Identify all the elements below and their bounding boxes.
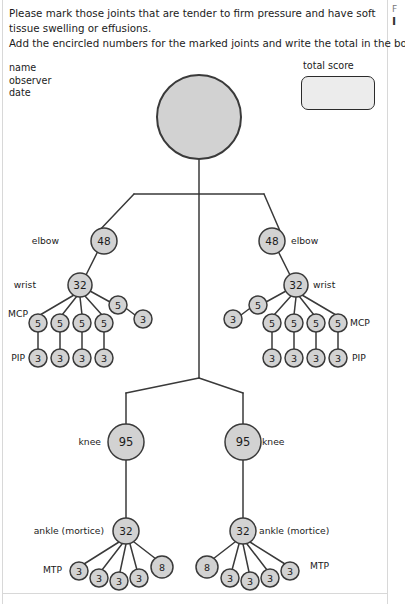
joint-node-pip-right-2[interactable]: 3	[307, 349, 325, 367]
joint-node-pip-left-4[interactable]: 3	[95, 349, 113, 367]
label-mcp-left: MCP	[0, 309, 28, 318]
joint-node-mcp-right-2[interactable]: 5	[307, 314, 325, 332]
connector-ankle-to-mtp-right-4	[232, 544, 239, 570]
joint-value-mtp-right-1: 3	[287, 566, 293, 577]
joint-value-pip-left-1: 3	[35, 353, 41, 364]
label-wrist-left: wrist	[0, 280, 36, 289]
joint-node-mtp-right-3[interactable]: 3	[241, 572, 259, 590]
label-knee-left: knee	[0, 437, 101, 446]
connector-ankle-to-mtp-left-4	[130, 544, 137, 570]
joint-value-mcp-right-1: 5	[335, 318, 341, 329]
joint-value-elbow-left: 48	[97, 235, 110, 247]
connector-wrist-to-mcp-right-4	[274, 296, 291, 315]
joint-value-mcp-right-4: 5	[269, 318, 275, 329]
label-elbow-right: elbow	[291, 236, 318, 245]
joint-node-mtp-right-1[interactable]: 3	[281, 562, 299, 580]
joint-node-ip-right-thumb[interactable]: 3	[224, 310, 242, 328]
connector-wrist-to-mcp-left-1	[40, 295, 74, 315]
joint-node-mcp-right-thumb[interactable]: 5	[249, 296, 267, 314]
joint-node-wrist-left[interactable]: 32	[68, 273, 92, 297]
connector-hip-right-diagonal	[199, 378, 243, 393]
joint-value-pip-left-2: 3	[57, 353, 63, 364]
label-mtp-right: MTP	[310, 561, 329, 570]
joint-node-pip-right-3[interactable]: 3	[285, 349, 303, 367]
joint-node-mcp-left-1[interactable]: 5	[29, 314, 47, 332]
joint-node-mcp-right-1[interactable]: 5	[329, 314, 347, 332]
joint-value-mcp-left-3: 5	[79, 318, 85, 329]
joint-node-ankle-left[interactable]: 32	[113, 518, 139, 544]
joint-value-knee-right: 95	[236, 435, 251, 449]
joint-node-mtp-left-3[interactable]: 3	[110, 572, 128, 590]
connector-wrist-to-mcp-left-3	[80, 297, 82, 315]
joint-node-mtp-left-5[interactable]: 8	[151, 556, 173, 578]
joint-node-mcp-left-thumb[interactable]: 5	[109, 296, 127, 314]
joint-node-pip-right-4[interactable]: 3	[263, 349, 281, 367]
joint-node-mtp-right-4[interactable]: 3	[221, 569, 239, 587]
head-circle[interactable]	[157, 75, 241, 159]
joint-node-mcp-right-3[interactable]: 5	[285, 314, 303, 332]
joint-value-mtp-right-2: 3	[267, 573, 273, 584]
connector-ankle-to-mtp-left-1	[84, 542, 119, 564]
joint-value-mcp-left-2: 5	[57, 318, 63, 329]
joint-value-mtp-right-4: 3	[227, 573, 233, 584]
connector-ankle-to-mtp-right-2	[247, 544, 267, 570]
joint-value-pip-right-4: 3	[269, 353, 275, 364]
connector-wrist-to-mcp-right-3	[294, 297, 296, 315]
joint-node-ip-left-thumb[interactable]: 3	[134, 310, 152, 328]
joint-node-mtp-left-1[interactable]: 3	[70, 562, 88, 580]
joint-node-mcp-right-4[interactable]: 5	[263, 314, 281, 332]
connector-wrist-to-mcp-right-1	[302, 295, 336, 315]
joint-value-mtp-left-5: 8	[159, 562, 165, 573]
label-ankle-left: ankle (mortice)	[0, 526, 104, 535]
joint-value-ip-left-thumb: 3	[140, 314, 146, 325]
joint-node-mtp-right-5[interactable]: 8	[196, 556, 218, 578]
label-knee-right: knee	[262, 437, 284, 446]
joint-value-mtp-left-3: 3	[116, 576, 122, 587]
joint-value-mtp-right-3: 3	[247, 576, 253, 587]
connector-ankle-to-mtp-right-1	[250, 542, 285, 564]
joint-value-pip-left-3: 3	[79, 353, 85, 364]
connector-ankle-to-mtp-left-3	[120, 544, 126, 572]
head-node[interactable]	[157, 75, 241, 159]
connector-ankle-to-mtp-right-5	[213, 542, 235, 559]
connector-elbow-to-wrist-left	[86, 251, 98, 275]
joint-manikin-diagram: 4848323255555333335555533333959532323333…	[0, 0, 405, 604]
joint-node-elbow-right[interactable]: 48	[259, 228, 285, 254]
joint-value-mtp-left-4: 3	[136, 573, 142, 584]
connector-wrist-to-thumb-right	[266, 291, 286, 302]
joint-node-mcp-left-2[interactable]: 5	[51, 314, 69, 332]
joint-node-knee-left[interactable]: 95	[108, 424, 144, 460]
joint-node-pip-left-3[interactable]: 3	[73, 349, 91, 367]
joint-node-knee-right[interactable]: 95	[225, 424, 261, 460]
joint-value-elbow-right: 48	[265, 235, 278, 247]
connector-wrist-to-mcp-right-2	[299, 296, 314, 315]
joint-value-pip-right-2: 3	[313, 353, 319, 364]
joint-node-pip-right-1[interactable]: 3	[329, 349, 347, 367]
joint-value-mtp-right-5: 8	[204, 562, 210, 573]
joint-nodes: 4848323255555333335555533333959532323333…	[29, 75, 347, 590]
joint-value-mcp-right-thumb: 5	[255, 300, 261, 311]
joint-value-mcp-right-2: 5	[313, 318, 319, 329]
label-mcp-right: MCP	[350, 318, 370, 327]
joint-node-mtp-right-2[interactable]: 3	[261, 569, 279, 587]
joint-node-elbow-left[interactable]: 48	[91, 228, 117, 254]
joint-value-ip-right-thumb: 3	[230, 314, 236, 325]
connector-ankle-to-mtp-right-3	[243, 544, 249, 572]
connector-thumb-to-ip-right	[241, 309, 249, 315]
joint-node-ankle-right[interactable]: 32	[230, 518, 256, 544]
joint-value-mcp-left-1: 5	[35, 318, 41, 329]
joint-node-mtp-left-4[interactable]: 3	[130, 569, 148, 587]
label-ankle-right: ankle (mortice)	[259, 526, 329, 535]
joint-value-mcp-right-3: 5	[291, 318, 297, 329]
connector-hip-left-diagonal	[126, 378, 199, 393]
joint-node-pip-left-1[interactable]: 3	[29, 349, 47, 367]
joint-node-wrist-right[interactable]: 32	[284, 273, 308, 297]
label-mtp-left: MTP	[0, 565, 62, 574]
joint-value-pip-left-4: 3	[101, 353, 107, 364]
joint-node-mcp-left-3[interactable]: 5	[73, 314, 91, 332]
joint-node-mcp-left-4[interactable]: 5	[95, 314, 113, 332]
label-pip-right: PIP	[352, 353, 366, 362]
joint-node-pip-left-2[interactable]: 3	[51, 349, 69, 367]
joint-value-pip-right-3: 3	[291, 353, 297, 364]
joint-node-mtp-left-2[interactable]: 3	[90, 569, 108, 587]
